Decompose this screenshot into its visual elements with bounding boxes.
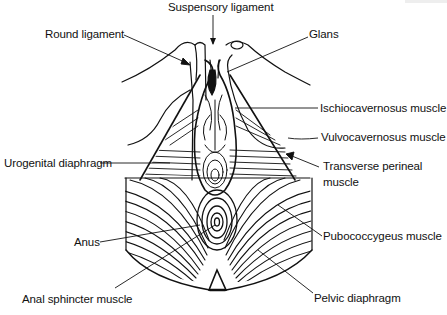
label-round-ligament: Round ligament xyxy=(45,28,124,41)
label-urogenital-diaphragm: Urogenital diaphragm xyxy=(4,157,112,170)
label-ischiocavernosus-muscle: Ischiocavernosus muscle xyxy=(320,102,446,115)
label-pubococcygeus-muscle: Pubococcygeus muscle xyxy=(323,230,442,243)
label-anal-sphincter-muscle: Anal sphincter muscle xyxy=(22,293,132,306)
label-transverse-perineal-line1: Transverse perineal xyxy=(323,160,422,173)
label-transverse-perineal-line2: muscle xyxy=(323,176,359,189)
anatomy-diagram: Suspensory ligament Round ligament Glans… xyxy=(0,0,447,315)
label-vulvocavernosus-muscle: Vulvocavernosus muscle xyxy=(321,131,446,144)
label-pelvic-diaphragm: Pelvic diaphragm xyxy=(314,292,401,305)
label-glans: Glans xyxy=(309,28,339,41)
label-suspensory-ligament: Suspensory ligament xyxy=(168,1,274,14)
leader-lines xyxy=(100,15,322,293)
label-anus: Anus xyxy=(74,236,100,249)
